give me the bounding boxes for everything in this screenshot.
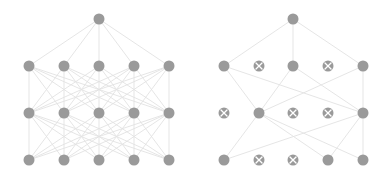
dropout-network-edges [224,19,363,160]
connection-edge [224,66,363,113]
neuron [288,14,299,25]
connection-edge [224,66,259,113]
connection-edge [64,19,99,66]
neuron [164,61,175,72]
neuron [94,108,105,119]
neuron [94,61,105,72]
neuron [254,108,265,119]
standard-network [24,14,175,166]
neuron [129,108,140,119]
neuron [164,155,175,166]
connection-edge [293,66,363,113]
neuron [323,155,334,166]
neuron [94,14,105,25]
connection-edge [328,113,363,160]
connection-edge [99,19,169,66]
connection-edge [293,19,363,66]
neuron [219,155,230,166]
connection-edge [99,19,134,66]
neuron [59,61,70,72]
connection-edge [29,19,99,66]
connection-edge [259,66,363,113]
neuron [24,61,35,72]
standard-network-edges [29,19,169,160]
neuron [94,155,105,166]
dropout-diagram [0,0,392,182]
neuron [164,108,175,119]
neuron [219,61,230,72]
dropout-network [219,14,369,166]
neuron [59,108,70,119]
connection-edge [224,113,259,160]
connection-edge [224,113,363,160]
neuron [288,61,299,72]
neuron [59,155,70,166]
neuron [358,108,369,119]
neuron [358,61,369,72]
connection-edge [259,66,293,113]
connection-edge [224,19,293,66]
neuron [24,108,35,119]
neuron [24,155,35,166]
neuron [129,61,140,72]
connection-edge [259,113,363,160]
neuron [358,155,369,166]
neuron [129,155,140,166]
